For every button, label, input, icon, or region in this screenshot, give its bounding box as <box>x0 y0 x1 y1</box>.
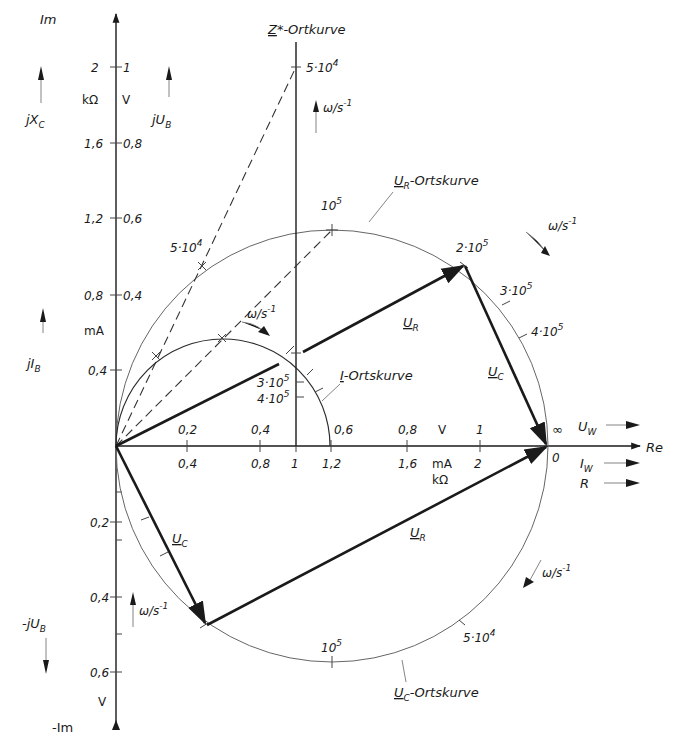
svg-text:UC: UC <box>488 364 505 382</box>
im-tick-neg-0-6: 0,6 <box>90 666 109 680</box>
re-tick-0-4v: 0,4 <box>251 423 270 437</box>
ur-phasor-upper <box>303 266 463 352</box>
re-unit-ma: mA <box>432 457 453 471</box>
re-tick-2: 2 <box>474 457 482 471</box>
re-tick-1v: 1 <box>476 423 484 437</box>
svg-text:105: 105 <box>321 196 342 213</box>
svg-text:ω/s-1: ω/s-1 <box>323 98 352 115</box>
svg-text:-jUB: -jUB <box>22 616 46 634</box>
re-tick-0-8: 0,8 <box>251 457 270 471</box>
svg-text:3·105: 3·105 <box>500 281 533 298</box>
re-tick-0-2v: 0,2 <box>178 423 197 437</box>
re-tick-1: 1 <box>291 457 299 471</box>
svg-text:UR: UR <box>410 525 426 543</box>
re-tick-0-6v: 0,6 <box>334 423 353 437</box>
im-tick-0-4-right: 0,4 <box>123 289 142 303</box>
dashed-line-1e5 <box>116 230 332 446</box>
svg-text:ω/s-1: ω/s-1 <box>139 601 168 618</box>
omega-arrow-up-icon <box>313 100 319 112</box>
re-axis-label: Re <box>646 440 663 455</box>
frequency-labels: 5·104 5·104 105 2·105 3·105 4·105 3·105 … <box>170 58 564 655</box>
re-unit-v: V <box>438 423 447 437</box>
ur-ortskurve-leader <box>369 192 393 222</box>
svg-text:ω/s-1: ω/s-1 <box>247 304 276 321</box>
im-axis <box>112 14 120 730</box>
uc-phasor-lower <box>116 446 205 623</box>
im-tick-0-4-left: 0,4 <box>88 364 107 378</box>
ur-ortskurve-label: UR-Ortskurve <box>394 173 479 191</box>
im-tick-0-8: 0,8 <box>123 137 142 151</box>
re-tick-1-2: 1,2 <box>322 457 341 471</box>
i-ortskurve-label: I-Ortskurve <box>340 368 413 383</box>
im-tick-1-6: 1,6 <box>84 137 103 151</box>
svg-text:5·104: 5·104 <box>170 238 203 255</box>
im-ticks-upper: 2 1 kΩ V 1,6 0,8 1,2 0,6 0,8 0,4 mA 0,4 <box>82 61 142 378</box>
iw-arrow-icon <box>626 459 640 467</box>
uc-ortskurve-leader <box>402 660 406 682</box>
svg-text:UC: UC <box>172 531 189 549</box>
svg-text:R: R <box>580 476 589 491</box>
svg-text:5·104: 5·104 <box>463 628 496 645</box>
svg-text:IW: IW <box>580 456 594 474</box>
im-unit-kohm: kΩ <box>82 93 98 107</box>
svg-text:UW: UW <box>578 419 598 437</box>
re-unit-kohm: kΩ <box>432 473 448 487</box>
svg-text:jXC: jXC <box>24 112 46 130</box>
svg-text:jUB: jUB <box>150 112 171 130</box>
neg-im-arrow-icon <box>112 720 120 730</box>
svg-text:jIB: jIB <box>25 356 41 374</box>
svg-text:ω/s-1: ω/s-1 <box>542 563 571 580</box>
svg-text:2·105: 2·105 <box>456 238 489 255</box>
uc-locus-curve <box>116 446 548 662</box>
direction-labels-right: UW IW R <box>578 419 640 491</box>
im-tick-2kohm: 2 <box>91 61 99 75</box>
im-tick-neg-0-2: 0,2 <box>90 516 109 530</box>
svg-text:3·105: 3·105 <box>257 373 290 390</box>
ur-phasor-lower <box>207 447 546 625</box>
im-axis-label: Im <box>40 12 57 27</box>
svg-text:5·104: 5·104 <box>306 58 339 75</box>
neg-jub-arrow-icon <box>43 660 49 674</box>
omega-arrow-down-icon <box>523 577 534 588</box>
i-ortskurve-leader <box>322 384 340 401</box>
im-tick-neg-0-4: 0,4 <box>90 591 109 605</box>
re-tick-0-8v: 0,8 <box>398 423 417 437</box>
omega-arrow-up-lower-icon <box>130 592 136 605</box>
svg-text:ω/s-1: ω/s-1 <box>548 216 577 233</box>
frequency-cross-marks <box>141 67 527 668</box>
ortskurven-diagram: Im -Im Re 2 1 kΩ V 1,6 0,8 1,2 0,6 0,8 0… <box>0 0 678 736</box>
jub-arrow-icon <box>166 66 172 80</box>
im-tick-1v: 1 <box>123 61 131 75</box>
jxc-arrow-icon <box>38 66 44 80</box>
im-tick-1-2: 1,2 <box>84 212 103 226</box>
r-arrow-icon <box>626 479 640 487</box>
svg-text:105: 105 <box>321 638 342 655</box>
im-unit-ma: mA <box>84 324 105 338</box>
uw-arrow-icon <box>626 421 640 429</box>
svg-text:4·105: 4·105 <box>257 389 290 406</box>
re-ticks: 0,2 0,4 0,6 0,8 V 1 0,4 0,8 1 1,2 1,6 mA… <box>178 423 484 487</box>
svg-text:0: 0 <box>552 451 560 465</box>
re-tick-0-4: 0,4 <box>178 457 197 471</box>
im-unit-neg-v: V <box>98 695 107 709</box>
omega-arrow-i-icon <box>258 326 270 336</box>
svg-text:∞: ∞ <box>552 422 563 437</box>
z-star-ortkurve-label: Z*-Ortkurve <box>267 22 346 37</box>
im-unit-v: V <box>122 93 131 107</box>
jib-arrow-icon <box>40 308 46 322</box>
svg-text:4·105: 4·105 <box>531 322 564 339</box>
re-tick-1-6: 1,6 <box>398 457 417 471</box>
im-tick-0-6: 0,6 <box>123 212 142 226</box>
im-ticks-lower: 0,2 0,4 0,6 V <box>90 492 122 709</box>
neg-im-axis-label: -Im <box>52 720 73 735</box>
svg-text:UR: UR <box>403 315 419 333</box>
uc-ortskurve-label: UC-Ortskurve <box>394 685 479 703</box>
im-tick-0-8-left: 0,8 <box>84 289 103 303</box>
